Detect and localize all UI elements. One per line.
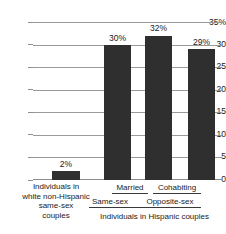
rule-cohabiting-underline — [153, 193, 201, 194]
x-label-hispanic-group: Individuals in Hispanic couples — [89, 212, 220, 221]
x-axis-labels: Individuals in white non-Hispanic same-s… — [0, 181, 226, 234]
plot-area: 2% 30% 32% 29% — [33, 22, 222, 180]
x-label-same-sex: Same-sex — [88, 197, 132, 206]
x-label-married: Married — [111, 183, 149, 192]
x-label-line-1: Individuals in — [8, 182, 104, 192]
bar-value-label-32: 32% — [135, 24, 182, 33]
bar-hispanic-same-sex — [104, 45, 131, 180]
bar-value-label-2: 2% — [42, 160, 90, 169]
bar-value-label-30: 30% — [94, 34, 141, 43]
bar-hispanic-opposite-sex-cohabiting — [188, 49, 215, 180]
rule-married-underline — [112, 193, 148, 194]
bar-hispanic-opposite-sex-married — [145, 36, 172, 181]
bar-value-label-29: 29% — [178, 38, 225, 47]
rule-opposite-sex-underline — [111, 207, 201, 208]
x-label-cohabiting: Cohabiting — [152, 183, 202, 192]
x-label-opposite-sex: Opposite-sex — [137, 197, 203, 206]
bar-chart-figure: 35% 30 25 20 15 10 5 0 2 — [0, 0, 226, 234]
bar-white-non-hispanic-same-sex — [52, 171, 80, 180]
gridline-35 — [33, 22, 222, 23]
